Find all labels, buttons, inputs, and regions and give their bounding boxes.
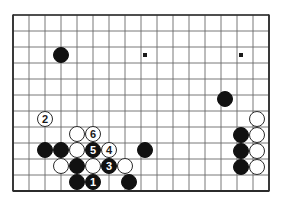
stone-black-4[interactable] bbox=[37, 142, 53, 158]
stone-move-1[interactable]: 1 bbox=[85, 174, 101, 190]
stone-black-20[interactable] bbox=[233, 127, 249, 143]
stone-black-22[interactable] bbox=[233, 143, 249, 159]
stone-move-number: 4 bbox=[106, 144, 112, 155]
goban-grid bbox=[0, 0, 292, 209]
star-point bbox=[143, 53, 147, 57]
stone-white-19[interactable] bbox=[249, 111, 265, 127]
stone-black-9[interactable] bbox=[137, 142, 153, 158]
stone-white-6[interactable] bbox=[69, 142, 85, 158]
stone-move-3[interactable]: 3 bbox=[101, 158, 117, 174]
stone-move-number: 1 bbox=[90, 176, 96, 187]
stone-move-number: 2 bbox=[42, 113, 48, 124]
stone-white-14[interactable] bbox=[117, 158, 133, 174]
stone-black-18[interactable] bbox=[217, 91, 233, 107]
stone-move-5[interactable]: 5 bbox=[85, 142, 101, 158]
stone-white-23[interactable] bbox=[249, 143, 265, 159]
stone-move-number: 5 bbox=[90, 144, 96, 155]
star-point bbox=[239, 53, 243, 57]
stone-black-24[interactable] bbox=[233, 159, 249, 175]
stone-white-2[interactable] bbox=[69, 126, 85, 142]
stone-white-25[interactable] bbox=[249, 159, 265, 175]
stone-black-5[interactable] bbox=[53, 142, 69, 158]
stone-black-0[interactable] bbox=[53, 47, 69, 63]
stone-move-number: 3 bbox=[106, 160, 112, 171]
stone-black-11[interactable] bbox=[69, 158, 85, 174]
stone-move-4[interactable]: 4 bbox=[101, 142, 117, 158]
stone-white-10[interactable] bbox=[53, 158, 69, 174]
stone-white-12[interactable] bbox=[85, 158, 101, 174]
stone-move-2[interactable]: 2 bbox=[37, 111, 53, 127]
stone-black-17[interactable] bbox=[121, 174, 137, 190]
stone-move-number: 6 bbox=[90, 128, 96, 139]
stone-white-21[interactable] bbox=[249, 127, 265, 143]
stone-move-6[interactable]: 6 bbox=[85, 126, 101, 142]
stone-black-15[interactable] bbox=[69, 174, 85, 190]
go-diagram: 265431 bbox=[0, 0, 292, 209]
